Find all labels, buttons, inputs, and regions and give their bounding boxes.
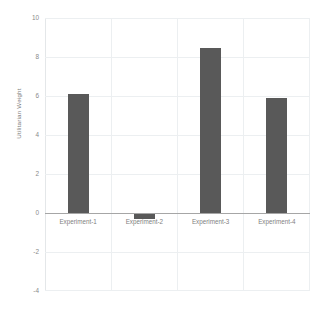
zero-axis-line — [45, 213, 310, 214]
y-tick-label: 4 — [21, 132, 39, 138]
y-tick-label: 2 — [21, 171, 39, 177]
gridline-vertical — [111, 18, 112, 291]
y-tick-label: -2 — [21, 249, 39, 255]
y-tick-label: 0 — [21, 210, 39, 216]
bar-experiment-1 — [68, 94, 89, 213]
y-tick-label: 10 — [21, 15, 39, 21]
bar-experiment-3 — [200, 48, 221, 213]
x-tick-label-experiment-4: Experiment-4 — [244, 218, 310, 225]
bar-experiment-4 — [266, 98, 287, 213]
gridline-vertical — [177, 18, 178, 291]
x-tick-label-experiment-1: Experiment-1 — [45, 218, 111, 225]
y-axis-tick-labels: 10 8 6 4 2 0 -2 -4 — [21, 0, 39, 309]
gridline-vertical — [243, 18, 244, 291]
bar-chart: Utilitarian Weight 10 8 6 4 2 0 -2 -4 Ex… — [0, 0, 326, 309]
x-tick-label-experiment-2: Experiment-2 — [111, 218, 177, 225]
y-axis-line — [45, 18, 46, 291]
y-tick-label: -4 — [21, 288, 39, 294]
y-tick-label: 6 — [21, 93, 39, 99]
y-tick-label: 8 — [21, 54, 39, 60]
x-tick-label-experiment-3: Experiment-3 — [178, 218, 244, 225]
gridline-vertical — [309, 18, 310, 291]
plot-area: Experiment-1 Experiment-2 Experiment-3 E… — [45, 18, 310, 291]
